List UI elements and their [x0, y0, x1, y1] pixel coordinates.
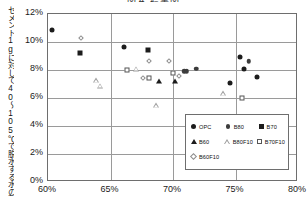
legend-marker-icon [190, 138, 197, 145]
chart-legend: OPCB80B70B60B80F10B70F10B60F10 [185, 114, 289, 170]
legend-row: B60B80F10B70F10 [190, 134, 285, 149]
y-tick-label-text: 8% [30, 63, 43, 73]
legend-item-b60f10[interactable]: B60F10 [190, 153, 228, 160]
legend-label: B80 [234, 124, 244, 130]
legend-item-b80[interactable]: B80 [225, 123, 258, 130]
data-point-opc [237, 54, 242, 59]
data-point-b70f10 [147, 75, 152, 80]
data-point-b60f10 [146, 58, 152, 64]
legend-label: B60F10 [199, 154, 219, 160]
open-square-icon [257, 139, 262, 144]
legend-label: OPC [199, 124, 211, 130]
gridline-vertical [173, 14, 174, 180]
data-point-b80f10 [220, 91, 226, 96]
chart-title: 図４ 結果図 [0, 0, 307, 2]
legend-row: B60F10 [190, 149, 285, 164]
x-tick-label: 60% [38, 184, 56, 194]
legend-marker-icon [224, 138, 231, 145]
y-tick-label-text: 12% [25, 7, 43, 17]
grey-circle-icon [226, 124, 231, 129]
filled-square-icon [259, 124, 264, 129]
data-point-b70 [146, 47, 151, 52]
data-point-b80f10 [133, 66, 139, 71]
data-point-b60f10 [140, 75, 146, 81]
filled-triangle-icon [191, 139, 197, 144]
legend-item-b70f10[interactable]: B70F10 [256, 138, 285, 145]
legend-item-opc[interactable]: OPC [190, 123, 225, 130]
data-point-b80 [246, 59, 251, 64]
data-point-b60 [172, 79, 178, 84]
data-point-b70f10 [240, 95, 245, 100]
legend-marker-icon [190, 123, 197, 130]
x-tick-label: 70% [163, 184, 181, 194]
legend-label: B70 [267, 124, 277, 130]
legend-item-b70[interactable]: B70 [258, 123, 285, 130]
legend-item-b60[interactable]: B60 [190, 138, 224, 145]
data-point-opc [255, 75, 260, 80]
legend-marker-icon [190, 153, 197, 160]
data-point-b60 [156, 79, 162, 84]
legend-label: B60 [199, 139, 209, 145]
data-point-b60f10 [176, 73, 182, 79]
y-tick-label-text: 10% [25, 35, 43, 45]
data-point-b70f10 [171, 70, 176, 75]
filled-circle-icon [191, 124, 196, 129]
data-point-b70 [77, 51, 82, 56]
data-point-opc [241, 66, 246, 71]
open-triangle-icon [224, 139, 230, 144]
gridline-vertical [111, 14, 112, 180]
data-point-b60f10 [78, 35, 84, 41]
y-tick-label-text: 2% [30, 147, 43, 157]
legend-item-b80f10[interactable]: B80F10 [224, 138, 256, 145]
y-axis-title: セメント1gに対して40～105℃で脱水する水の割合 [1, 6, 14, 196]
x-tick-label: 65% [100, 184, 118, 194]
legend-label: B70F10 [265, 139, 285, 145]
data-point-b80f10 [153, 103, 159, 108]
data-point-b80 [185, 69, 190, 74]
data-point-b80f10 [97, 83, 103, 88]
y-tick-label-text: 4% [30, 119, 43, 129]
legend-label: B80F10 [233, 139, 253, 145]
data-point-b80f10 [93, 78, 99, 83]
data-point-b80 [194, 67, 199, 72]
legend-marker-icon [225, 123, 232, 130]
data-point-opc [49, 28, 54, 33]
data-point-b60f10 [167, 58, 173, 64]
data-point-opc [122, 44, 127, 49]
open-diamond-icon [190, 153, 197, 160]
gridline-horizontal [48, 42, 296, 43]
gridline-horizontal [48, 98, 296, 99]
y-tick-label-text: 6% [30, 91, 43, 101]
legend-marker-icon [256, 138, 263, 145]
data-point-b70f10 [124, 68, 129, 73]
chart-container: 図４ 結果図 セメント1gに対して40～105℃で脱水する水の割合 0%2%4%… [0, 0, 307, 201]
x-tick-label: 75% [225, 184, 243, 194]
data-points [48, 14, 296, 39]
legend-marker-icon [258, 123, 265, 130]
x-tick-label: 80% [288, 184, 306, 194]
data-point-opc [227, 80, 232, 85]
legend-row: OPCB80B70 [190, 119, 285, 134]
